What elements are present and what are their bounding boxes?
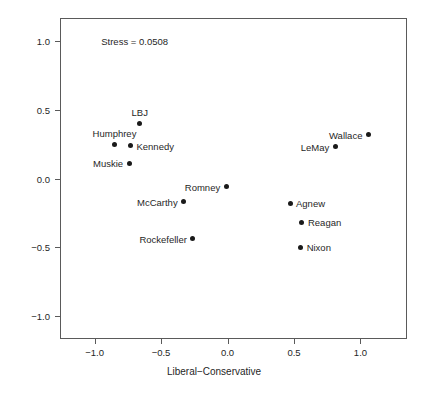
x-axis-tick	[95, 339, 96, 344]
data-point-marker	[127, 161, 132, 166]
data-points-layer: LBJHumphreyKennedyMuskieWallaceLeMayRomn…	[60, 18, 407, 339]
data-point-marker	[298, 245, 303, 250]
y-axis-tick-label: −1.0	[31, 310, 50, 321]
data-point-label: Humphrey	[93, 129, 137, 139]
data-point-marker	[190, 236, 195, 241]
data-point-label: Reagan	[308, 218, 341, 228]
y-axis-tick-label: 1.0	[37, 36, 50, 47]
data-point-label: LBJ	[132, 108, 148, 118]
data-point-label: LeMay	[301, 143, 330, 153]
data-point-marker	[299, 220, 304, 225]
data-point-label: Kennedy	[136, 142, 174, 152]
x-axis-title: Liberal−Conservative	[0, 366, 428, 377]
data-point-label: Wallace	[329, 131, 362, 141]
data-point-marker	[181, 199, 186, 204]
data-point-marker	[224, 184, 229, 189]
x-axis-tick-label: 1.0	[354, 347, 367, 358]
x-axis-tick	[228, 339, 229, 344]
y-axis-tick	[55, 247, 60, 248]
data-point-label: Agnew	[296, 199, 325, 209]
x-axis-tick-label: 0.0	[221, 347, 234, 358]
data-point-marker	[112, 142, 117, 147]
data-point-label: McCarthy	[137, 198, 178, 208]
x-axis-tick-label: 0.5	[287, 347, 300, 358]
y-axis-tick	[55, 316, 60, 317]
x-axis-tick	[161, 339, 162, 344]
data-point-label: Romney	[185, 183, 220, 193]
data-point-marker	[128, 143, 133, 148]
data-point-label: Rockefeller	[139, 235, 187, 245]
y-axis-tick	[55, 41, 60, 42]
y-axis-tick-label: 0.5	[37, 104, 50, 115]
y-axis-tick	[55, 110, 60, 111]
scatter-plot-figure: Stress = 0.0508 LBJHumphreyKennedyMuskie…	[0, 0, 428, 402]
y-axis-tick-label: −0.5	[31, 242, 50, 253]
y-axis-tick	[55, 179, 60, 180]
y-axis-tick-label: 0.0	[37, 173, 50, 184]
data-point-marker	[366, 132, 371, 137]
data-point-label: Nixon	[307, 243, 331, 253]
x-axis-tick-label: −0.5	[152, 347, 171, 358]
data-point-label: Muskie	[93, 159, 123, 169]
x-axis-tick-label: −1.0	[85, 347, 104, 358]
x-axis-tick	[294, 339, 295, 344]
data-point-marker	[333, 144, 338, 149]
data-point-marker	[137, 121, 142, 126]
data-point-marker	[288, 201, 293, 206]
x-axis-tick	[360, 339, 361, 344]
